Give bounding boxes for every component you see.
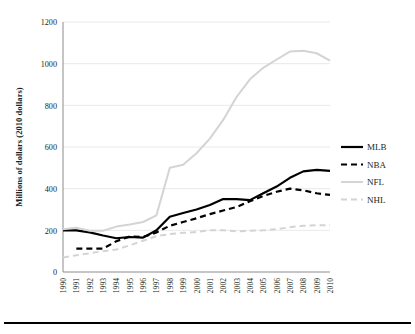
x-tick-label: 2002 — [219, 278, 228, 293]
x-tick-label: 1993 — [99, 278, 108, 293]
x-tick-label: 2005 — [259, 278, 268, 293]
x-tick-label: 1997 — [152, 278, 161, 293]
y-tick-label: 800 — [45, 102, 57, 111]
x-tick-label: 2010 — [326, 278, 335, 293]
legend-label-nba: NBA — [367, 160, 387, 170]
x-tick-label: 2001 — [206, 278, 215, 293]
x-tick-label: 2008 — [299, 278, 308, 293]
x-tick-labels: 1990199119921993199419951996199719981999… — [59, 278, 335, 293]
y-tick-label: 1200 — [41, 18, 57, 27]
x-tick-label: 1996 — [139, 278, 148, 293]
x-tick-label: 1994 — [112, 278, 121, 293]
y-tick-label: 400 — [45, 185, 57, 194]
x-tick-label: 2000 — [193, 278, 202, 293]
y-tick-label: 1000 — [41, 60, 57, 69]
legend-label-mlb: MLB — [367, 142, 387, 152]
x-tick-label: 2006 — [273, 278, 282, 293]
y-tick-label: 200 — [45, 227, 57, 236]
x-tick-label: 2009 — [313, 278, 322, 293]
series-line-nfl — [63, 51, 330, 231]
x-tick-label: 1999 — [179, 278, 188, 293]
series-line-nba — [76, 189, 330, 249]
x-tick-label: 1998 — [166, 278, 175, 293]
y-tick-label: 0 — [53, 268, 57, 277]
x-tick-label: 2003 — [233, 278, 242, 293]
x-tick-label: 1995 — [126, 278, 135, 293]
y-tick-labels: 020040060080010001200 — [41, 18, 57, 277]
bottom-divider-rule — [4, 322, 411, 324]
x-tick-label: 1991 — [72, 278, 81, 293]
chart-figure: 020040060080010001200Millions of dollars… — [0, 0, 415, 334]
legend: MLBNBANFLNHL — [341, 142, 387, 205]
x-tick-label: 2007 — [286, 278, 295, 293]
line-chart: 020040060080010001200Millions of dollars… — [0, 0, 415, 334]
gridlines — [63, 22, 330, 230]
y-tick-label: 600 — [45, 143, 57, 152]
legend-label-nhl: NHL — [367, 195, 386, 205]
y-axis-title: Millions of dollars (2010 dollars) — [14, 87, 24, 206]
series-group — [63, 51, 330, 258]
x-tick-label: 1990 — [59, 278, 68, 293]
x-tick-label: 1992 — [86, 278, 95, 293]
x-tick-label: 2004 — [246, 278, 255, 293]
legend-label-nfl: NFL — [367, 177, 384, 187]
